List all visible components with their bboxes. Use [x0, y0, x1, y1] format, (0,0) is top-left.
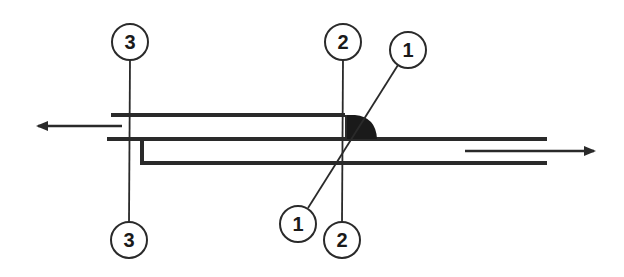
callout-label: 2: [337, 31, 348, 53]
callout-1-top: 1: [390, 32, 426, 68]
callout-2-top: 2: [325, 24, 361, 60]
callout-label: 2: [336, 229, 347, 251]
weld-joint-diagram: 3 3 2 2 1 1: [0, 0, 624, 277]
fillet-weld: [347, 115, 377, 139]
callout-2-bottom: 2: [324, 222, 360, 258]
callout-3-top: 3: [112, 24, 148, 60]
callout-label: 3: [124, 31, 135, 53]
callout-label: 1: [402, 39, 413, 61]
callout-label: 1: [292, 213, 303, 235]
section-line-2: [342, 60, 343, 222]
section-line-1: [308, 65, 398, 208]
callout-1-bottom: 1: [280, 206, 316, 242]
callout-3-bottom: 3: [111, 222, 147, 258]
section-line-3: [129, 60, 130, 222]
callout-label: 3: [123, 229, 134, 251]
